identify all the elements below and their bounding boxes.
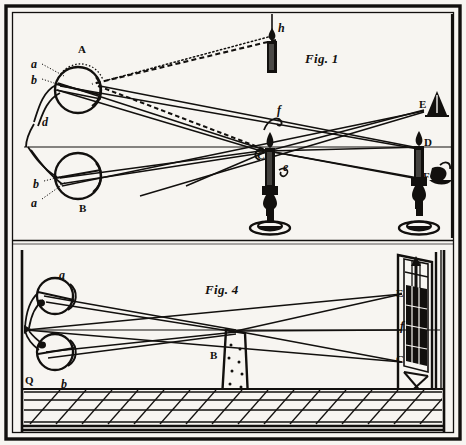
fig1-label-eye-a-upper: a <box>31 58 37 70</box>
fig1-nerve-junction <box>26 124 34 147</box>
fig4-eye-lower <box>25 331 76 370</box>
fig1-label-candle-C: C <box>257 150 265 161</box>
fig1-label-eye-b-upper: b <box>31 74 37 86</box>
fig4-label-eye-a-upper: a <box>59 269 65 281</box>
fig1-label-eye-a-lower: a <box>31 197 37 209</box>
fig4-label-window-C: C <box>396 354 404 365</box>
fig4-label-chair-B: B <box>210 350 217 361</box>
fig1-label-eye-d: d <box>42 116 48 128</box>
fig1-object-F <box>429 162 452 184</box>
fig1-cone-lamp-E <box>425 91 449 116</box>
fig1-hanging-candle-h <box>267 14 277 73</box>
fig4-label-window-f: f <box>400 320 404 332</box>
fig4-label-window-E: E <box>396 288 403 299</box>
fig1-label-eye-A: A <box>78 44 86 55</box>
fig1-label-eye-B: B <box>79 203 86 214</box>
fig1-label-candle-h: h <box>278 22 285 34</box>
fig1-leader-lines-upper <box>42 64 64 85</box>
fig4-label-corner-Q: Q <box>25 375 34 386</box>
fig4-caption: Fig. 4 <box>205 283 239 296</box>
fig4-artwork <box>22 250 450 432</box>
plate-artwork <box>0 0 466 445</box>
plate-border <box>6 6 460 439</box>
fig1-eye-B <box>28 147 101 199</box>
fig1-label-eye-b-lower: b <box>33 178 39 190</box>
fig4-floor <box>22 388 450 430</box>
fig1-caption: Fig. 1 <box>305 52 339 65</box>
fig1-label-lamp-E: E <box>419 99 426 110</box>
fig1-leader-lines-lower <box>42 176 66 199</box>
fig1-label-candle-D: D <box>424 137 432 148</box>
fig1-artwork <box>24 14 452 238</box>
diagram-plate: Fig. 1 a b A d b a B h f C e E D F Fig. … <box>0 0 466 445</box>
figure-divider <box>13 241 453 245</box>
fig1-label-object-F: F <box>423 171 430 182</box>
fig1-label-point-e: e <box>283 161 288 173</box>
fig1-label-point-f: f <box>277 104 281 116</box>
fig4-label-eye-b-lower: b <box>61 378 67 390</box>
